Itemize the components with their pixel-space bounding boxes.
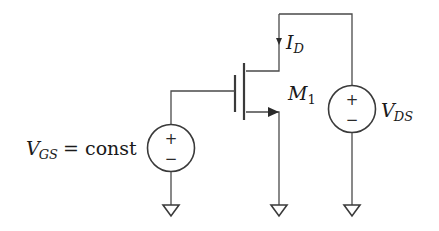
vds-minus-sign: − [346, 111, 359, 129]
current-arrow-icon [276, 38, 282, 45]
circuit-diagram: + − + − ID M1 VDS VGS= const [0, 0, 439, 231]
ground-icon [163, 205, 179, 216]
current-label: ID [285, 31, 305, 56]
vds-plus-sign: + [346, 91, 359, 109]
vgs-minus-sign: − [165, 150, 178, 168]
transistor-label: M1 [287, 82, 316, 107]
vgs-label: VGS= const [26, 137, 137, 162]
ground-icon [271, 205, 287, 216]
wire-gate [171, 91, 235, 124]
wire-drain [246, 14, 279, 71]
ground-icon [344, 205, 360, 216]
vgs-plus-sign: + [165, 130, 178, 148]
source-arrow-icon [268, 107, 279, 117]
vds-label: VDS [381, 99, 413, 124]
wire-source [246, 112, 279, 205]
